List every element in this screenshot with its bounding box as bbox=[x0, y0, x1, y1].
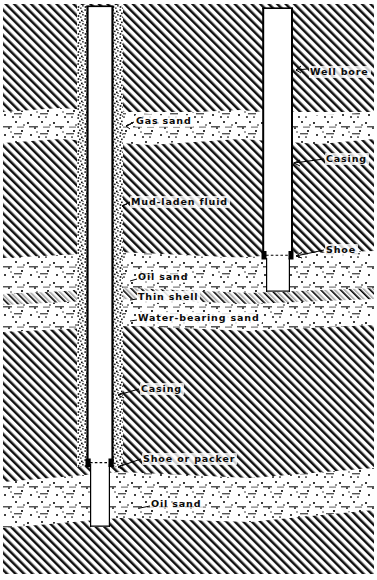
left-well bbox=[77, 5, 123, 527]
cross-section-drawing bbox=[0, 0, 377, 580]
left-well-bore-interior bbox=[88, 6, 112, 464]
right-well-casing-wall-right bbox=[291, 8, 293, 258]
label-shoe: Shoe bbox=[325, 244, 358, 256]
label-casing-upper: Casing bbox=[325, 153, 369, 165]
well-cross-section-figure: Well bore Gas sand Casing Mud-laden flui… bbox=[0, 0, 377, 580]
label-shoe-or-packer: Shoe or packer bbox=[142, 453, 237, 465]
label-oil-sand-lower: Oil sand bbox=[150, 498, 203, 510]
left-well-open-hole-wall-right bbox=[109, 458, 110, 527]
label-well-bore: Well bore bbox=[309, 66, 371, 78]
right-well-shoe-right-block bbox=[289, 251, 294, 260]
label-casing-lower: Casing bbox=[140, 383, 184, 395]
label-gas-sand: Gas sand bbox=[135, 115, 194, 127]
left-well-open-hole bbox=[90, 458, 110, 527]
left-well-open-hole-bottom bbox=[90, 526, 110, 527]
label-water-bearing-sand: Water-bearing sand bbox=[137, 312, 262, 324]
stratum-overburden-upper bbox=[3, 4, 374, 112]
right-well-shoe-left-block bbox=[262, 251, 267, 260]
left-well-casing-top bbox=[86, 5, 113, 7]
left-well-open-hole-wall-left bbox=[90, 458, 91, 527]
left-well-annulus-left bbox=[77, 5, 87, 467]
label-mud-laden-fluid: Mud-laden fluid bbox=[130, 196, 230, 208]
left-well-casing-wall-right bbox=[111, 6, 113, 464]
label-oil-sand-upper: Oil sand bbox=[137, 271, 190, 283]
right-well-bore-interior bbox=[263, 8, 293, 258]
left-well-packer-left-block bbox=[86, 459, 91, 468]
left-well-annulus-right bbox=[113, 5, 123, 467]
left-well-casing-wall-left bbox=[86, 6, 88, 464]
right-well-casing-wall-left bbox=[262, 8, 264, 258]
right-well-open-hole-bottom bbox=[266, 291, 290, 292]
strata-group bbox=[3, 4, 374, 574]
right-well-casing-top bbox=[262, 7, 293, 9]
right-well bbox=[262, 7, 294, 292]
label-thin-shell: Thin shell bbox=[137, 291, 200, 303]
